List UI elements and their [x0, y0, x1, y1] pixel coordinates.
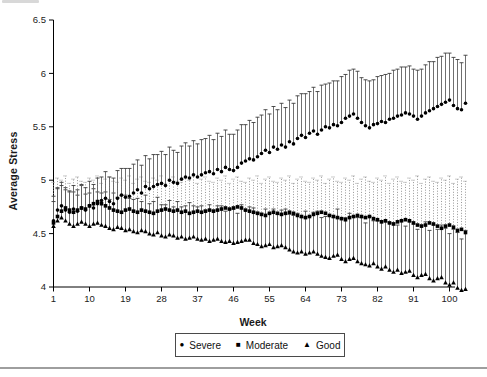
svg-text:5: 5 [41, 174, 46, 185]
svg-text:19: 19 [120, 293, 131, 304]
svg-text:4: 4 [41, 281, 46, 292]
svg-text:100: 100 [442, 293, 458, 304]
svg-text:64: 64 [300, 293, 311, 304]
page-divider-line [0, 367, 487, 369]
svg-text:37: 37 [192, 293, 203, 304]
legend-label-moderate: Moderate [246, 340, 288, 351]
legend-label-severe: Severe [189, 340, 221, 351]
svg-text:73: 73 [336, 293, 347, 304]
legend-item-severe: ● Severe [179, 340, 221, 351]
chart-legend: ● Severe ■ Moderate ▲ Good [175, 333, 345, 357]
svg-text:91: 91 [408, 293, 419, 304]
legend-item-moderate: ■ Moderate [236, 340, 288, 351]
legend-label-good: Good [316, 340, 340, 351]
report-page: 44.555.566.5110192837465564738291100 Ave… [0, 0, 487, 377]
svg-text:28: 28 [156, 293, 167, 304]
x-axis-title: Week [239, 316, 266, 328]
svg-text:6: 6 [41, 68, 46, 79]
svg-text:82: 82 [372, 293, 383, 304]
svg-text:1: 1 [51, 293, 56, 304]
triangle-marker-icon: ▲ [303, 341, 311, 349]
svg-text:10: 10 [84, 293, 95, 304]
circle-marker-icon: ● [179, 341, 184, 349]
svg-text:46: 46 [228, 293, 239, 304]
svg-text:4.5: 4.5 [33, 228, 46, 239]
svg-text:6.5: 6.5 [33, 14, 46, 25]
square-marker-icon: ■ [236, 341, 241, 349]
svg-text:5.5: 5.5 [33, 121, 46, 132]
svg-text:55: 55 [264, 293, 275, 304]
legend-item-good: ▲ Good [303, 340, 340, 351]
y-axis-title: Average Stress [7, 132, 19, 211]
